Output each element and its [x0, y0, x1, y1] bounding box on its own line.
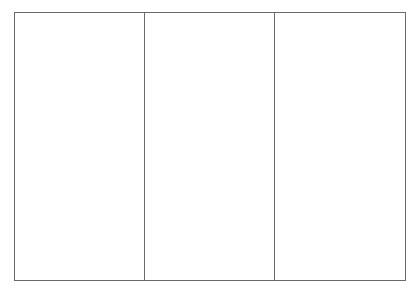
three-panel-frame — [14, 12, 406, 281]
panel-left — [15, 13, 144, 280]
panel-right — [274, 13, 405, 280]
panel-middle — [144, 13, 274, 280]
